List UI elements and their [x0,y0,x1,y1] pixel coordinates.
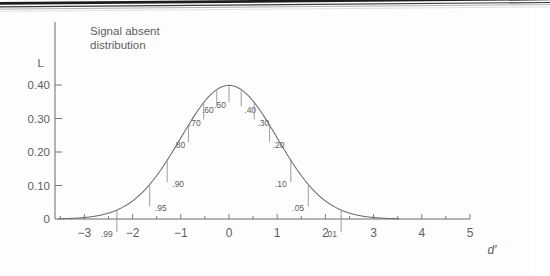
y-tick-label-0: 0.40 [28,79,50,91]
percentile-label-50: .50 [214,100,226,110]
percentile-label-70: .70 [189,118,201,128]
percentile-label-99: .99 [101,229,113,239]
percentile-label-90: .90 [172,179,184,189]
percentile-label-30: .30 [257,118,269,128]
percentile-label-01: .01 [325,229,337,239]
x-tick-label-7: 4 [418,226,425,240]
percentile-label-80: .80 [174,140,186,150]
x-tick-label-6: 3 [370,226,377,240]
percentile-label-05: .05 [292,203,304,213]
x-tick-label-0: −3 [78,226,92,240]
percentile-label-60: .60 [202,105,214,115]
y-tick-label-1: 0.30 [28,113,50,125]
percentile-label-20: .20 [273,140,285,150]
x-tick-label-4: 1 [274,226,281,240]
x-tick-label-3: 0 [226,226,233,240]
y-tick-label-2: 0.20 [28,146,50,158]
percentile-label-10: .10 [275,179,287,189]
x-tick-label-8: 5 [467,226,474,240]
percentile-label-95: .95 [155,203,167,213]
y-tick-label-4: 0 [44,213,50,225]
x-tick-label-1: −2 [126,226,140,240]
x-tick-label-2: −1 [174,226,188,240]
y-tick-label-3: 0.10 [28,180,50,192]
normal-curve [58,85,399,218]
